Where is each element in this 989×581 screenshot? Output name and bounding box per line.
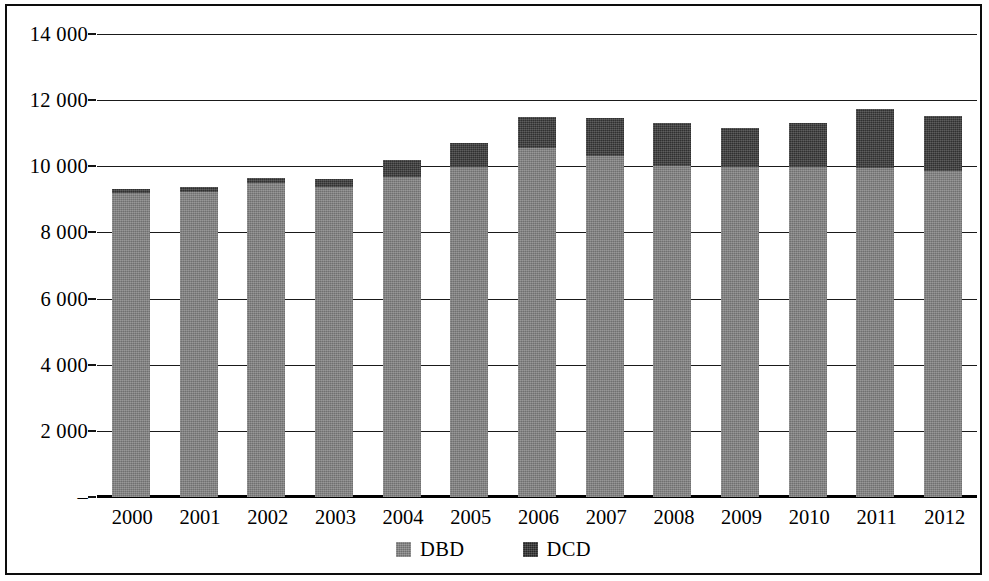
bar-segment-dcd[interactable] <box>383 160 421 176</box>
bar-2009[interactable]: 2009 <box>721 128 759 497</box>
bar-segment-dbd[interactable] <box>789 167 827 497</box>
x-axis-tick-label: 2002 <box>247 506 285 529</box>
bar-2007[interactable]: 2007 <box>586 118 624 497</box>
x-axis-tick-label: 2004 <box>383 506 421 529</box>
dbd-swatch-icon <box>396 542 411 557</box>
y-axis-tick-mark <box>88 33 96 35</box>
bar-segment-dbd[interactable] <box>180 192 218 497</box>
bar-segment-dbd[interactable] <box>721 167 759 497</box>
y-axis-tick-mark <box>88 364 96 366</box>
bar-segment-dcd[interactable] <box>856 109 894 168</box>
bar-segment-dcd[interactable] <box>789 123 827 168</box>
y-axis-tick-label: 6 000 <box>40 287 88 310</box>
bar-2010[interactable]: 2010 <box>789 123 827 497</box>
y-axis-tick-label: – <box>77 486 88 509</box>
bar-segment-dbd[interactable] <box>383 177 421 497</box>
bar-2000[interactable]: 2000 <box>112 189 150 497</box>
gridline <box>97 34 977 35</box>
bar-2005[interactable]: 2005 <box>450 143 488 497</box>
chart-frame: 14 00012 00010 0008 0006 0004 0002 000–2… <box>5 4 982 575</box>
bar-segment-dcd[interactable] <box>315 179 353 187</box>
x-axis-tick-label: 2008 <box>653 506 691 529</box>
y-axis-tick-mark <box>88 231 96 233</box>
bar-2003[interactable]: 2003 <box>315 179 353 497</box>
bar-segment-dcd[interactable] <box>450 143 488 167</box>
bar-2008[interactable]: 2008 <box>653 123 691 497</box>
x-axis-tick-label: 2009 <box>721 506 759 529</box>
bar-segment-dbd[interactable] <box>112 193 150 497</box>
x-axis-tick-label: 2010 <box>789 506 827 529</box>
bar-segment-dbd[interactable] <box>247 183 285 497</box>
bar-segment-dbd[interactable] <box>518 148 556 497</box>
x-axis-tick-label: 2003 <box>315 506 353 529</box>
y-axis-tick-mark <box>88 430 96 432</box>
x-axis-tick-label: 2001 <box>180 506 218 529</box>
legend-item-dbd[interactable]: DBD <box>396 538 464 561</box>
x-axis-tick-label: 2005 <box>450 506 488 529</box>
legend-item-dcd[interactable]: DCD <box>523 538 591 561</box>
bar-segment-dbd[interactable] <box>924 171 962 497</box>
bar-2006[interactable]: 2006 <box>518 117 556 497</box>
gridline <box>97 100 977 101</box>
bar-segment-dcd[interactable] <box>586 118 624 156</box>
bar-2012[interactable]: 2012 <box>924 116 962 497</box>
x-axis-tick-label: 2000 <box>112 506 150 529</box>
y-axis-tick-mark <box>88 298 96 300</box>
bar-segment-dbd[interactable] <box>856 168 894 497</box>
chart-legend: DBDDCD <box>7 538 980 561</box>
legend-label: DCD <box>547 538 591 561</box>
bar-2001[interactable]: 2001 <box>180 187 218 497</box>
dcd-swatch-icon <box>523 542 538 557</box>
bar-segment-dcd[interactable] <box>518 117 556 148</box>
x-axis-tick-label: 2012 <box>924 506 962 529</box>
bar-segment-dcd[interactable] <box>653 123 691 165</box>
bar-segment-dcd[interactable] <box>924 116 962 171</box>
y-axis-tick-label: 8 000 <box>40 221 88 244</box>
bar-segment-dbd[interactable] <box>653 166 691 497</box>
y-axis-tick-label: 14 000 <box>30 23 88 46</box>
x-axis-tick-label: 2007 <box>586 506 624 529</box>
bar-segment-dbd[interactable] <box>586 156 624 497</box>
bar-2004[interactable]: 2004 <box>383 160 421 497</box>
y-axis-tick-label: 2 000 <box>40 419 88 442</box>
x-axis-tick-label: 2011 <box>856 506 894 529</box>
y-axis-tick-mark <box>88 165 96 167</box>
x-axis-tick-label: 2006 <box>518 506 556 529</box>
y-axis-tick-mark <box>88 496 96 498</box>
y-axis-tick-label: 10 000 <box>30 155 88 178</box>
bar-segment-dbd[interactable] <box>450 167 488 497</box>
plot-area: 14 00012 00010 0008 0006 0004 0002 000–2… <box>97 34 977 497</box>
legend-label: DBD <box>420 538 464 561</box>
y-axis-tick-mark <box>88 99 96 101</box>
y-axis-tick-label: 12 000 <box>30 89 88 112</box>
bar-2002[interactable]: 2002 <box>247 178 285 497</box>
y-axis-tick-label: 4 000 <box>40 353 88 376</box>
bar-segment-dcd[interactable] <box>721 128 759 168</box>
bar-2011[interactable]: 2011 <box>856 109 894 497</box>
bar-segment-dbd[interactable] <box>315 187 353 497</box>
